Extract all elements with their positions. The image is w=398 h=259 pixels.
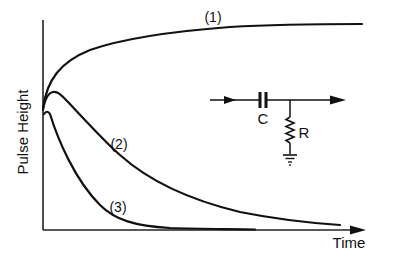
capacitor-label: C [258, 110, 269, 127]
curve-1-label: (1) [204, 9, 221, 25]
curve-2-label: (2) [110, 136, 127, 152]
curve-1 [43, 24, 362, 108]
input-arrow-icon [224, 96, 236, 104]
output-arrow-icon [330, 96, 346, 105]
pulse-shaping-diagram: Pulse Height Time (1) (2) (3) C R [0, 0, 398, 259]
y-axis-label: Pulse Height [14, 89, 31, 175]
cr-circuit: C R [210, 92, 346, 166]
resistor-label: R [299, 124, 310, 141]
curve-2 [43, 92, 340, 225]
ground-icon [283, 155, 297, 166]
x-axis-label: Time [333, 234, 366, 251]
resistor-icon [286, 117, 294, 143]
curve-3 [44, 112, 255, 230]
curve-3-label: (3) [109, 199, 126, 215]
